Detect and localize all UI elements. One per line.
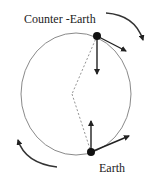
earth-body (87, 148, 95, 156)
orbit-diagram-svg (0, 0, 156, 189)
counter-earth-vectors (97, 36, 126, 74)
counter-earth-body (93, 32, 101, 40)
rotation-arrow-bottom-icon (18, 140, 57, 167)
earth-label: Earth (99, 162, 125, 174)
counter-earth-label: Counter -Earth (24, 13, 96, 25)
orbit-ellipse (21, 33, 131, 155)
focus-dashed-lines (72, 36, 97, 152)
rotation-arrow-top-icon (106, 13, 143, 40)
orbit-diagram: Counter -Earth Earth (0, 0, 156, 189)
